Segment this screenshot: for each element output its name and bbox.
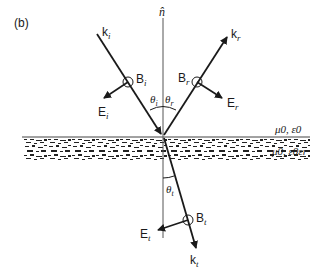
b-incident-label: Bi (136, 72, 147, 88)
theta-r-label: θr (165, 93, 174, 108)
e-reflected-label: Er (227, 96, 239, 112)
k-reflected-label: kr (231, 27, 241, 43)
reflected-ray (164, 37, 227, 135)
e-transmitted-label: Et (140, 227, 151, 243)
theta-i-label: θi (150, 93, 158, 108)
upper-medium-label: μ0, ε0 (274, 123, 302, 135)
e-incident-label: Ei (98, 105, 109, 121)
reflection-refraction-diagram: (b) n̂ ki Bi Ei kr Br Er θi θr kt Bt Et … (0, 0, 326, 275)
lower-medium-label: μ0, ε0εr (271, 145, 308, 157)
k-incident-label: ki (102, 25, 111, 41)
theta-t-label: θt (166, 183, 174, 198)
e-reflected-arrow (197, 82, 222, 98)
angle-arc-t (163, 176, 174, 178)
normal-label: n̂ (159, 5, 165, 19)
b-reflected-label: Br (178, 71, 190, 87)
e-incident-arrow (104, 82, 128, 98)
panel-label: (b) (14, 16, 29, 30)
b-transmitted-label: Bt (196, 211, 207, 227)
k-transmitted-label: kt (190, 253, 199, 269)
